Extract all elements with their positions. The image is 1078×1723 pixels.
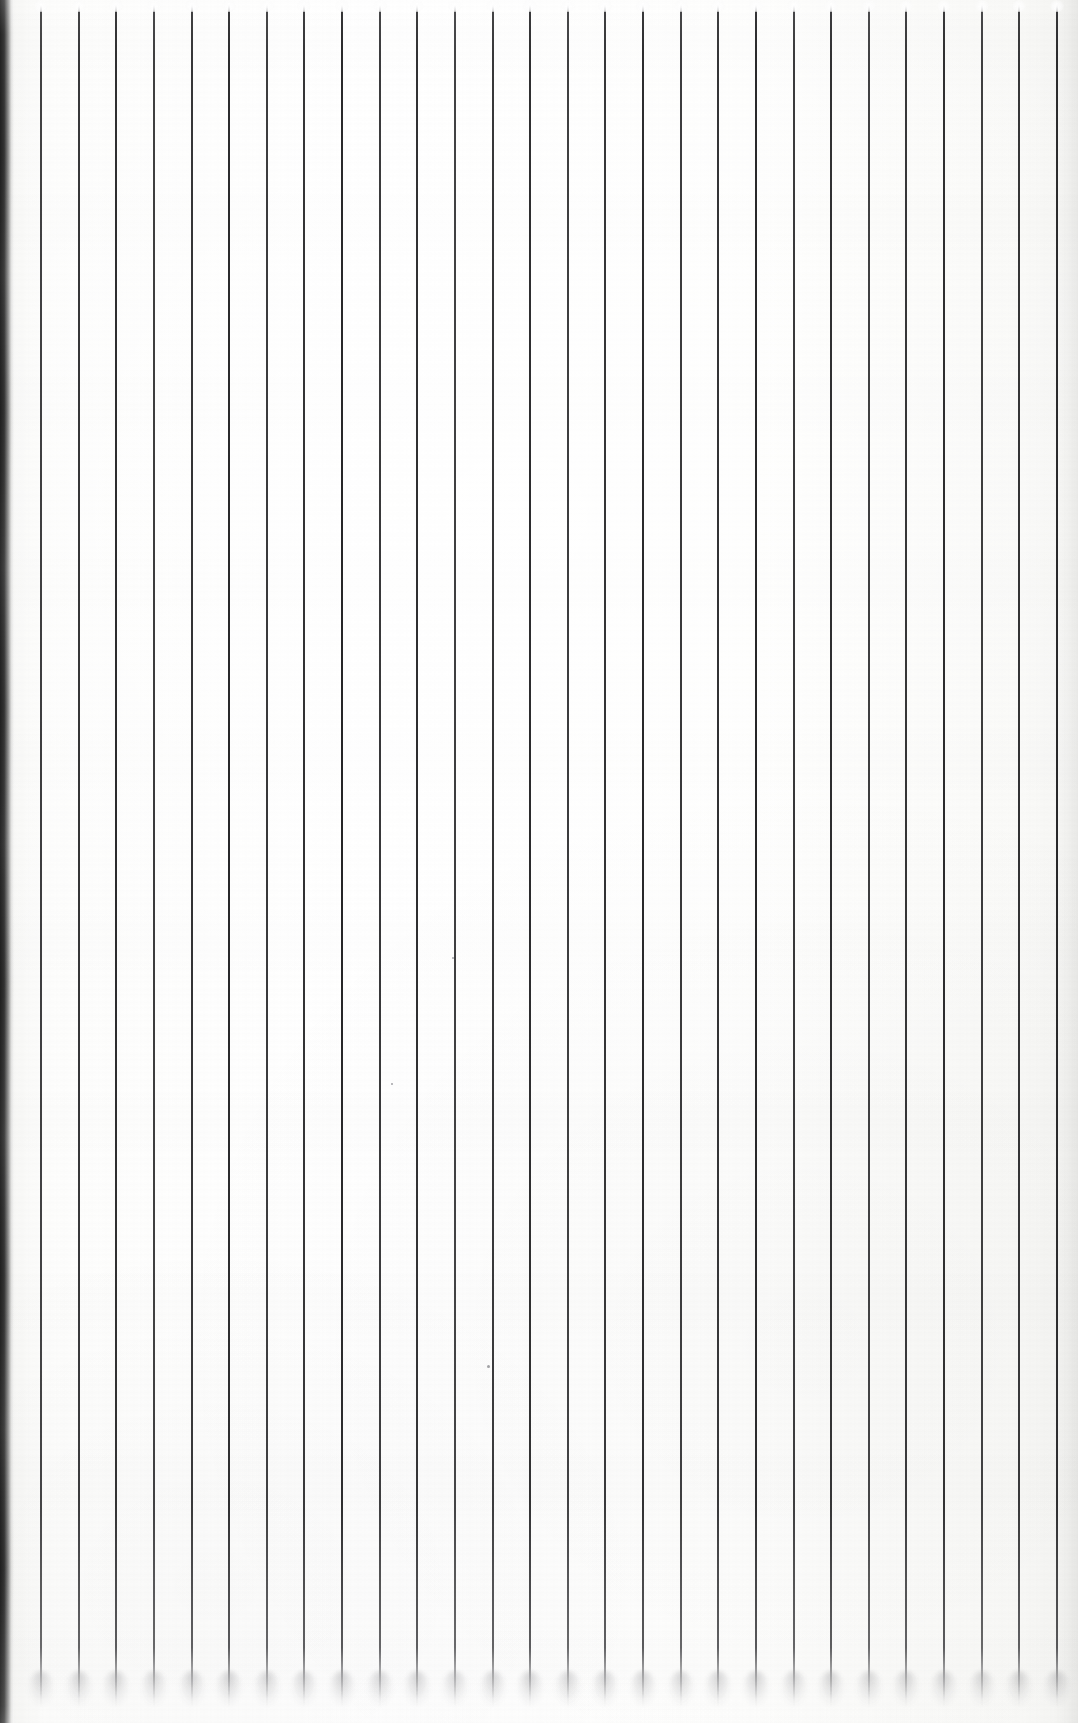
scanned-page	[0, 0, 1078, 1723]
paper-background	[0, 0, 1078, 1723]
